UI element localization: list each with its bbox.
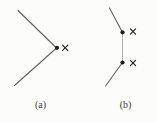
cross-marker (130, 29, 135, 34)
vertex-dot (120, 60, 124, 64)
panel-label-a: (a) (35, 99, 46, 111)
segment-edge (110, 8, 123, 33)
panel-b (106, 8, 136, 86)
panel-label-b: (b) (120, 99, 132, 111)
panel-a (15, 11, 68, 86)
segment-edge (18, 11, 57, 49)
cross-marker (130, 60, 135, 65)
two-panel-diagram: (a) (b) (0, 0, 157, 122)
segment-edge (15, 48, 57, 86)
segment-edge (106, 63, 123, 87)
vertex-dot (55, 46, 59, 50)
cross-marker (63, 45, 68, 50)
vertex-dot (120, 30, 124, 34)
